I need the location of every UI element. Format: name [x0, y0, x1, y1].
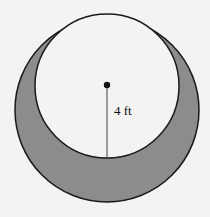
diagram-canvas: 4 ft	[0, 0, 210, 217]
center-point	[104, 82, 110, 88]
radius-label: 4 ft	[114, 103, 132, 118]
